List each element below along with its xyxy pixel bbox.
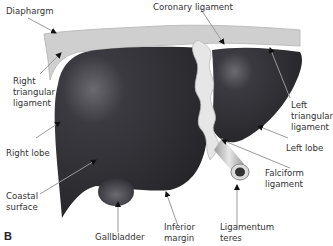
label-falciform-ligament: Falciform ligament [265, 168, 304, 190]
label-right-triangular-ligament: Right triangular ligament [13, 76, 55, 109]
label-coronary-ligament: Coronary ligament [153, 2, 233, 13]
label-inferior-margin: Inferior margin [164, 222, 195, 244]
label-ligamentum-teres: Ligamentum teres [220, 222, 274, 244]
gallbladder-shape [98, 178, 134, 206]
label-left-triangular-ligament: Left triangular ligament [291, 100, 333, 133]
label-gallbladder: Gallbladder [95, 232, 145, 243]
label-diaphragm: Diaphargm [6, 6, 54, 17]
panel-letter: B [4, 230, 12, 242]
label-right-lobe: Right lobe [6, 148, 50, 159]
label-left-lobe: Left lobe [286, 143, 323, 154]
label-coastal-surface: Coastal surface [6, 191, 38, 213]
